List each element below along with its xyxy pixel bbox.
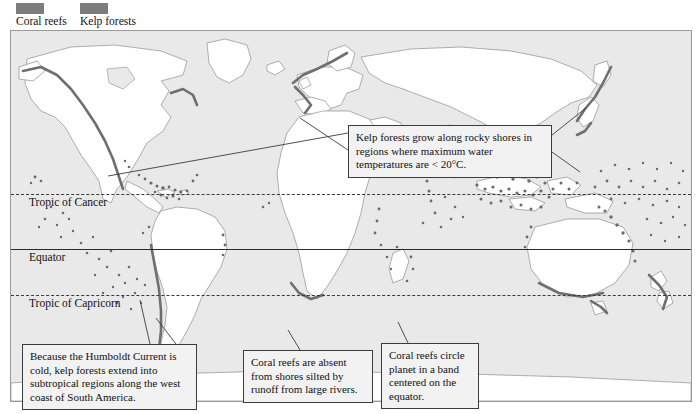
equator-line (11, 249, 691, 250)
callout-humboldt-current: Because the Humboldt Current is cold, ke… (22, 344, 197, 410)
callout-coral-silt-text: Coral reefs are absent from shores silte… (251, 356, 366, 397)
tropic-of-cancer-label: Tropic of Cancer (29, 196, 107, 208)
callout-coral-band: Coral reefs circle planet in a band cent… (381, 343, 479, 409)
callout-kelp-temperature: Kelp forests grow along rocky shores in … (348, 125, 552, 178)
callout-humboldt-current-text: Because the Humboldt Current is cold, ke… (30, 350, 190, 404)
callout-coral-band-text: Coral reefs circle planet in a band cent… (389, 349, 472, 403)
legend-item-kelp-forests: Kelp forests (80, 1, 136, 29)
legend-item-coral-reefs: Coral reefs (16, 1, 67, 29)
callout-coral-silt: Coral reefs are absent from shores silte… (243, 350, 373, 403)
tropic-of-capricorn-label: Tropic of Capricorn (29, 297, 121, 309)
callout-kelp-temperature-text: Kelp forests grow along rocky shores in … (356, 131, 545, 172)
map-legend: Coral reefs Kelp forests (14, 1, 314, 29)
legend-label-kelp-forests: Kelp forests (80, 15, 136, 28)
kelp-forests-swatch-icon (80, 3, 108, 14)
tropic-of-cancer-line (11, 194, 691, 195)
legend-label-coral-reefs: Coral reefs (16, 15, 67, 28)
coral-reefs-swatch-icon (16, 3, 44, 14)
tropic-of-capricorn-line (11, 295, 691, 296)
equator-label: Equator (29, 251, 65, 263)
